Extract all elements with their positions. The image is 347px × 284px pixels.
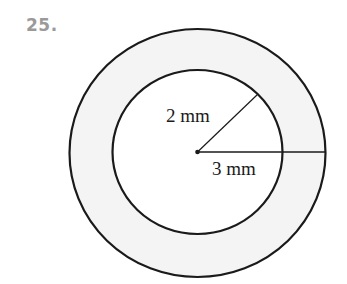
inner-radius-label: 2 mm [166, 105, 210, 126]
outer-radius-label: 3 mm [212, 158, 256, 179]
annulus-figure: 2 mm 3 mm [0, 0, 347, 284]
center-point [195, 150, 200, 155]
